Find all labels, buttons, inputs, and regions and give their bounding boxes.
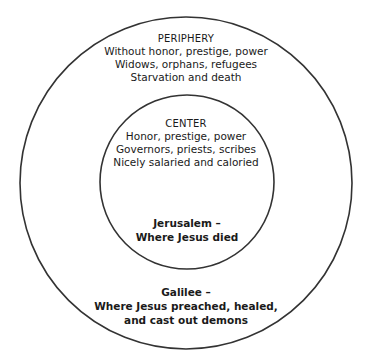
periphery-text-block: PERIPHERY Without honor, prestige, power… [104,32,268,84]
galilee-title: Galilee – [94,285,278,299]
jerusalem-label: Jerusalem – Where Jesus died [136,216,239,244]
periphery-line: Widows, orphans, refugees [104,58,268,71]
center-line: Governors, priests, scribes [113,143,258,156]
center-line: Honor, prestige, power [113,130,258,143]
center-text-block: CENTER Honor, prestige, power Governors,… [113,117,258,169]
periphery-heading: PERIPHERY [104,32,268,45]
jerusalem-title: Jerusalem – [136,216,239,230]
center-line: Nicely salaried and caloried [113,156,258,169]
galilee-subtitle: and cast out demons [94,313,278,327]
jerusalem-subtitle: Where Jesus died [136,230,239,244]
galilee-subtitle: Where Jesus preached, healed, [94,299,278,313]
periphery-line: Starvation and death [104,71,268,84]
concentric-diagram: PERIPHERY Without honor, prestige, power… [0,0,368,363]
periphery-line: Without honor, prestige, power [104,45,268,58]
center-heading: CENTER [113,117,258,130]
galilee-label: Galilee – Where Jesus preached, healed, … [94,285,278,327]
